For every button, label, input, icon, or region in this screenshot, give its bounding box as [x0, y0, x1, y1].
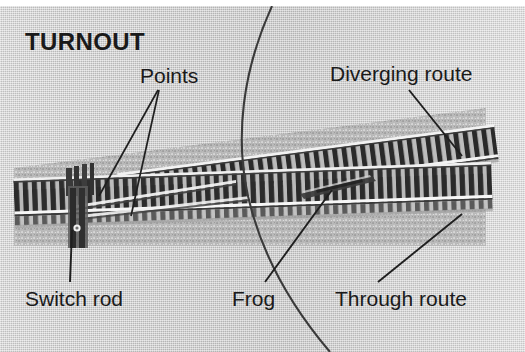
figure-title: TURNOUT	[25, 30, 145, 54]
label-points: Points	[140, 65, 198, 86]
label-through-route: Through route	[335, 288, 467, 309]
label-switch-rod: Switch rod	[25, 288, 123, 309]
label-diverging-route: Diverging route	[330, 63, 472, 84]
turnout-diagram-figure: TURNOUT Points Diverging route Switch ro…	[0, 0, 525, 352]
label-frog: Frog	[232, 288, 275, 309]
